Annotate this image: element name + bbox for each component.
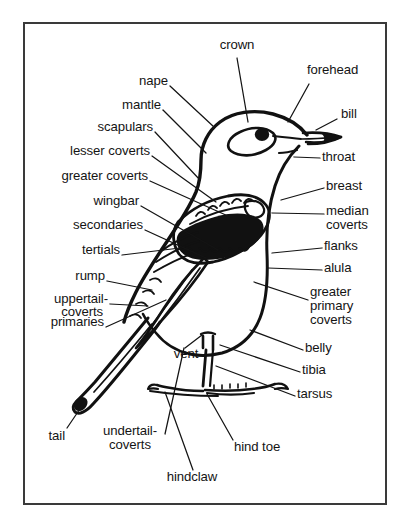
- label-wingbar: wingbar: [94, 194, 139, 208]
- leader-forehead: [288, 84, 309, 122]
- label-tertials: tertials: [82, 243, 120, 257]
- label-breast: breast: [326, 179, 362, 193]
- label-tarsus: tarsus: [297, 387, 332, 401]
- bird-tibia: [203, 336, 213, 350]
- leader-median-coverts: [272, 213, 324, 214]
- diagram-page: crown forehead bill nape mantle scapular…: [0, 0, 404, 521]
- label-tail: tail: [49, 429, 65, 443]
- label-rump: rump: [75, 269, 105, 283]
- label-flanks: flanks: [324, 239, 358, 253]
- leader-rump: [107, 281, 152, 290]
- bird-front-toe-second: [207, 393, 254, 395]
- label-vent: vent: [174, 347, 199, 361]
- label-undertail-coverts-1: undertail-: [103, 424, 157, 438]
- leader-hindclaw: [165, 392, 193, 470]
- label-undertail-coverts-2: coverts: [109, 438, 151, 452]
- label-crown: crown: [220, 38, 255, 52]
- leader-scapulars: [155, 132, 200, 180]
- label-primaries: primaries: [51, 315, 104, 329]
- label-bill: bill: [341, 107, 357, 121]
- label-tibia: tibia: [302, 363, 326, 377]
- label-scapulars: scapulars: [97, 120, 153, 134]
- label-throat: throat: [322, 150, 355, 164]
- bird-lores-line: [273, 136, 301, 139]
- bird-alula-feather: [245, 201, 264, 218]
- leader-flanks: [272, 248, 322, 253]
- leader-belly: [250, 330, 303, 350]
- leader-tibia: [220, 345, 300, 372]
- bird-toe-scales: [214, 383, 246, 389]
- label-greater-primary-coverts-1: greater: [310, 285, 351, 299]
- label-median-coverts-2: coverts: [326, 218, 368, 232]
- label-nape: nape: [139, 74, 168, 88]
- label-greater-primary-coverts-3: coverts: [310, 313, 352, 327]
- label-greater-coverts: greater coverts: [62, 169, 148, 183]
- label-secondaries: secondaries: [73, 218, 143, 232]
- bird-hind-toe: [157, 385, 203, 391]
- label-median-coverts-1: median: [326, 204, 369, 218]
- bird-hindclaw: [148, 385, 158, 389]
- label-greater-primary-coverts-2: primary: [310, 299, 353, 313]
- label-belly: belly: [305, 341, 332, 355]
- bird-front-claw: [275, 384, 288, 389]
- label-hind-toe: hind toe: [234, 440, 280, 454]
- label-alula: alula: [324, 261, 351, 275]
- leader-nape: [170, 86, 214, 127]
- bird-wing-dark-patch: [177, 213, 264, 260]
- label-lesser-coverts: lesser coverts: [70, 144, 150, 158]
- leader-greater-primary-coverts: [254, 282, 308, 300]
- leader-throat: [294, 157, 320, 158]
- leader-hind-toe: [207, 394, 233, 440]
- leader-bill: [316, 119, 337, 130]
- label-forehead: forehead: [307, 63, 358, 77]
- bird-tibia-joint: [201, 333, 215, 335]
- leader-alula: [268, 268, 322, 270]
- label-mantle: mantle: [122, 98, 161, 112]
- leader-breast: [281, 188, 324, 200]
- bird-tail-center-line: [94, 324, 152, 392]
- bird-eye: [255, 128, 269, 141]
- label-hindclaw: hindclaw: [167, 470, 218, 484]
